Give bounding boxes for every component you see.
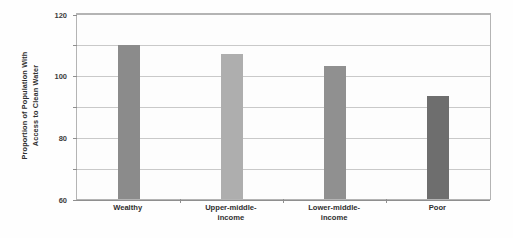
bar-chart-figure: Proportion of Population With Access to … [0, 0, 513, 238]
x-axis-label-2-line-1: Upper-middle- [205, 203, 256, 212]
y-axis-tick-60: 60 [73, 107, 77, 108]
y-axis-tick-120: 120 [73, 15, 77, 16]
x-axis-labels: WealthyUpper-middle-incomeLower-middle-i… [76, 203, 491, 237]
bar-lower-middle-income [324, 66, 346, 199]
y-axis-title-text: Proportion of Population With Access to … [21, 51, 42, 159]
y-axis-tick-100: 100 [73, 45, 77, 46]
y-axis-tick-20: 20 [73, 169, 77, 170]
y-axis-tick-label-80: 80 [59, 133, 67, 142]
x-axis-label-4-line-1: Poor [429, 203, 446, 212]
y-axis-tick-80: 80 [73, 76, 77, 77]
y-axis-tick-40: 40 [73, 138, 77, 139]
plot-inner: 020406080100120 [77, 15, 490, 199]
plot-area: 020406080100120 [76, 13, 491, 200]
y-axis-tick-label-60: 60 [59, 195, 67, 204]
bar-upper-middle-income [221, 54, 243, 199]
y-axis-title-line-1: Proportion of Population With [21, 51, 30, 159]
x-axis-label-3-line-1: Lower-middle- [308, 203, 360, 212]
y-axis-tick-label-120: 120 [54, 10, 67, 19]
bar-poor [427, 96, 449, 199]
x-axis-label-1-line-1: Wealthy [113, 203, 142, 212]
y-axis-tick-label-100: 100 [54, 72, 67, 81]
x-axis-label-4: Poor [429, 203, 446, 213]
x-axis-label-2-line-2: income [205, 213, 256, 223]
x-axis-label-2: Upper-middle-income [205, 203, 256, 223]
x-axis-label-1: Wealthy [113, 203, 142, 213]
bar-wealthy [118, 45, 140, 199]
y-axis-title-line-2: Access to Clean Water [31, 51, 42, 159]
x-axis-label-3: Lower-middle-income [308, 203, 360, 223]
y-axis-tick-0: 0 [73, 200, 77, 201]
x-axis-label-3-line-2: income [308, 213, 360, 223]
y-axis-title: Proportion of Population With Access to … [14, 0, 48, 210]
